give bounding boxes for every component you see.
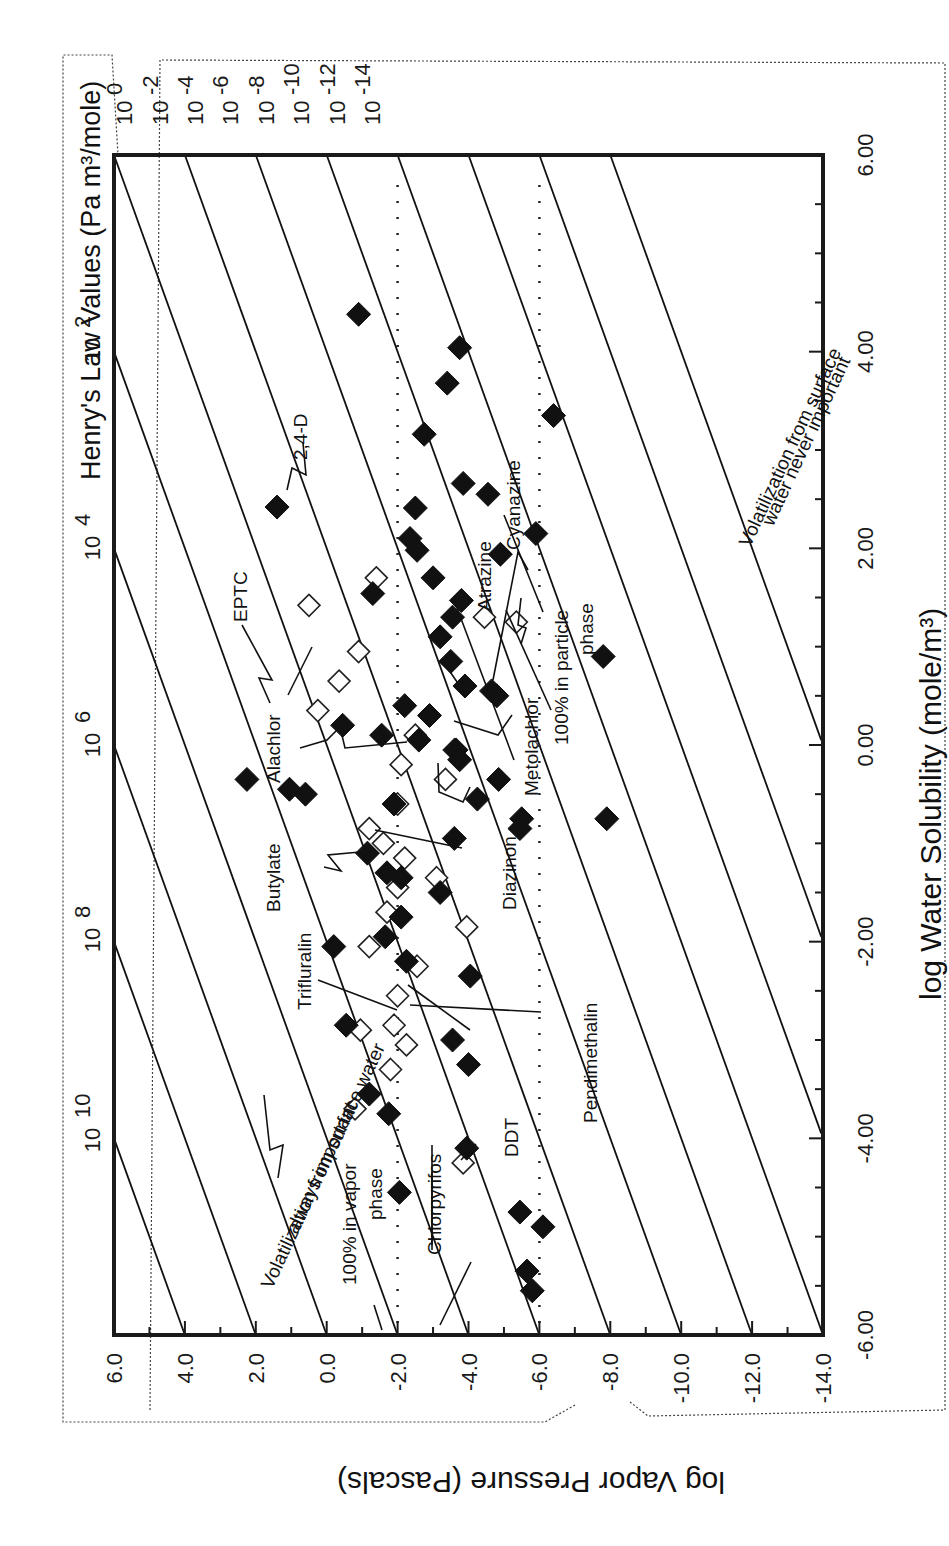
svg-text:-8: -8 [244, 75, 269, 95]
label-diazinon: Diazinon [499, 836, 520, 910]
label-eptc: EPTC [230, 571, 251, 622]
sol-tick-label: 2.00 [853, 527, 878, 570]
vp-tick-label: -6.0 [527, 1353, 552, 1391]
open-diamond-marker [390, 754, 412, 776]
label-trifluralin: Trifluralin [294, 933, 315, 1010]
label-cyanazine: Cyanazine [503, 460, 524, 550]
svg-text:-10: -10 [279, 63, 304, 95]
label-vapor-phase-1: 100% in vapor [339, 1163, 360, 1285]
open-diamond-marker [328, 670, 350, 692]
henry-label-left: 1010 [70, 1094, 105, 1153]
svg-text:-6: -6 [208, 75, 233, 95]
svg-text:-2: -2 [138, 75, 163, 95]
annotations: EPTC 2,4-D Alachlor Butylate Trifluralin… [230, 345, 855, 1292]
vp-tick-label: 0.0 [315, 1353, 340, 1384]
sol-tick-label: -2.00 [853, 917, 878, 967]
filled-diamond-marker [595, 807, 619, 831]
henry-label-left: 108 [70, 906, 105, 952]
filled-diamond-marker [412, 422, 436, 446]
filled-diamond-marker [347, 302, 371, 326]
vp-tick-label: 4.0 [173, 1353, 198, 1384]
label-metolachlor: Metolachlor [521, 697, 542, 796]
label-butylate: Butylate [263, 843, 284, 912]
filled-diamond-marker [441, 1028, 465, 1052]
filled-diamond-marker [435, 371, 459, 395]
filled-diamond-marker [457, 1053, 481, 1077]
x-axis-title: log Water Solubility (mole/m³) [914, 608, 947, 1000]
vp-tick-label: -4.0 [457, 1353, 482, 1391]
henry-label-top: 100 [102, 83, 137, 125]
henry-isoline [114, 1138, 185, 1335]
svg-text:10: 10 [289, 101, 314, 125]
svg-text:10: 10 [183, 101, 208, 125]
henry-label-top: 10-8 [244, 75, 279, 125]
filled-diamond-marker [542, 404, 566, 428]
svg-text:10: 10 [218, 101, 243, 125]
svg-text:10: 10 [80, 733, 105, 757]
open-diamond-marker [383, 1014, 405, 1036]
henry-label-top: 10-2 [138, 75, 173, 125]
svg-text:10: 10 [360, 101, 385, 125]
svg-text:-14: -14 [350, 63, 375, 95]
open-diamond-marker [394, 847, 416, 869]
henry-axis-title: Henry's Law Values (Pa m³/mole) [76, 81, 106, 480]
filled-diamond-marker [531, 1215, 555, 1239]
filled-diamond-marker [403, 496, 427, 520]
filled-diamond-marker [382, 792, 406, 816]
svg-text:8: 8 [70, 906, 95, 918]
label-particle-phase-2: phase [576, 603, 597, 655]
filled-diamond-marker [508, 1200, 532, 1224]
filled-diamond-marker [448, 336, 472, 360]
filled-diamond-marker [377, 1102, 401, 1126]
filled-diamond-marker [387, 1180, 411, 1204]
axis-tick-labels: 6.04.02.00.0-2.0-4.0-6.0-8.0-10.0-12.0-1… [70, 63, 878, 1403]
svg-text:10: 10 [80, 928, 105, 952]
open-diamond-marker [456, 916, 478, 938]
henry-label-top: 10-10 [279, 63, 314, 125]
svg-text:10: 10 [80, 1128, 105, 1152]
filled-diamond-marker [418, 704, 442, 728]
henry-label-top: 10-4 [173, 75, 208, 125]
label-atrazine: Atrazine [474, 541, 495, 611]
open-diamond-marker [387, 985, 409, 1007]
vp-tick-label: -8.0 [598, 1353, 623, 1391]
volatilization-chart: 6.04.02.00.0-2.0-4.0-6.0-8.0-10.0-12.0-1… [0, 0, 949, 1546]
henry-label-top: 10-6 [208, 75, 243, 125]
label-never-important-2: water never important [757, 353, 854, 530]
svg-text:10: 10 [80, 536, 105, 560]
label-alachlor: Alachlor [263, 714, 284, 783]
svg-text:10: 10 [112, 101, 137, 125]
filled-diamond-marker [421, 566, 445, 590]
open-diamond-marker [307, 700, 329, 722]
vp-tick-label: -12.0 [740, 1353, 765, 1403]
henry-label-left: 104 [70, 514, 105, 560]
filled-diamond-marker [524, 522, 548, 546]
henry-isoline [114, 942, 256, 1335]
filled-diamond-marker [451, 471, 475, 495]
sol-tick-label: 0.00 [853, 724, 878, 767]
henry-label-left: 106 [70, 711, 105, 757]
filled-diamond-marker [487, 767, 511, 791]
label-chlorpyrifos: Chlorpyrifos [424, 1154, 445, 1255]
filled-diamond-marker [235, 767, 259, 791]
label-24d: 2,4-D [290, 414, 311, 460]
label-pendimethalin: Pendimethalin [580, 1003, 601, 1123]
henry-label-top: 10-12 [315, 63, 350, 125]
open-diamond-marker [298, 594, 320, 616]
label-ddt: DDT [501, 1118, 522, 1157]
sol-tick-label: -6.00 [853, 1310, 878, 1360]
vp-tick-label: 2.0 [244, 1353, 269, 1384]
svg-text:10: 10 [70, 1094, 95, 1118]
filled-diamond-marker [265, 495, 289, 519]
svg-text:6: 6 [70, 711, 95, 723]
open-diamond-marker [395, 1034, 417, 1056]
svg-text:10: 10 [325, 101, 350, 125]
label-particle-phase-1: 100% in particle [551, 610, 572, 745]
sol-tick-label: -4.00 [853, 1113, 878, 1163]
label-vapor-phase-2: phase [365, 1168, 386, 1220]
svg-text:-12: -12 [315, 63, 340, 95]
open-diamond-marker [358, 818, 380, 840]
y-axis-title: log Vapor Pressure (Pascals) [337, 1466, 725, 1499]
filled-diamond-marker [520, 1279, 544, 1303]
vp-tick-label: -2.0 [386, 1353, 411, 1391]
